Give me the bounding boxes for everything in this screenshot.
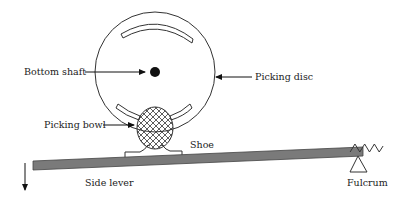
- picking-mechanism-diagram: Bottom shaft Picking disc Picking bowl S…: [0, 0, 395, 202]
- top-slot: [121, 24, 193, 43]
- bottom-left-slot: [116, 104, 140, 120]
- picking-bowl: [137, 107, 173, 149]
- fulcrum: [350, 156, 367, 172]
- picking-bowl-label: Picking bowl: [44, 119, 106, 130]
- fulcrum-label: Fulcrum: [347, 177, 388, 188]
- side-lever-label: Side lever: [85, 177, 134, 188]
- shoe-label: Shoe: [190, 139, 214, 150]
- picking-disc-label: Picking disc: [255, 71, 313, 82]
- side-lever: [33, 147, 363, 170]
- bottom-right-slot: [170, 104, 192, 120]
- bottom-shaft-label: Bottom shaft: [24, 66, 86, 77]
- bottom-shaft: [150, 67, 160, 77]
